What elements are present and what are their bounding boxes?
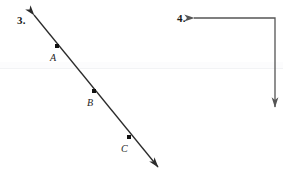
point-dot-a [55,44,59,48]
point-label-a: A [50,52,56,63]
problem-number-3: 3. [17,14,26,26]
worksheet-page: 3. 4. A B C [0,0,283,178]
point-dot-c [127,135,131,139]
problem-4-figure [194,18,275,107]
problem-3-figure [34,15,158,167]
point-label-b: B [87,97,93,108]
figures-canvas [0,0,283,178]
right-angle-path [194,18,275,107]
point-label-c: C [121,143,128,154]
point-dot-b [92,89,96,93]
problem-number-4: 4. [177,12,186,24]
